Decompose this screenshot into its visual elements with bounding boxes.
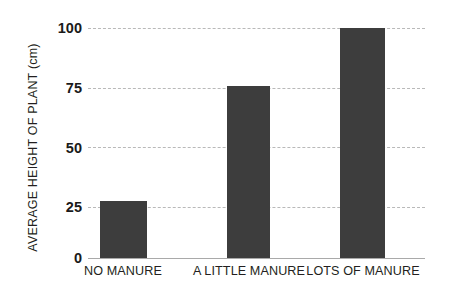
bar-lots-of-manure (340, 28, 385, 258)
x-label-no-manure: NO MANURE (84, 264, 162, 278)
bar-a-little-manure (227, 86, 270, 259)
x-label-lots-of-manure: LOTS OF MANURE (306, 264, 419, 278)
y-tick-label-75: 75 (40, 81, 82, 96)
x-axis-line (88, 258, 425, 259)
plot-area (88, 28, 425, 258)
bar-chart: AVERAGE HEIGHT OF PLANT (cm) 100 75 50 2… (0, 0, 450, 295)
y-tick-label-0: 0 (40, 251, 82, 266)
y-tick-label-100: 100 (40, 21, 82, 36)
y-axis-tick-labels: 100 75 50 25 0 (40, 0, 82, 295)
bar-no-manure (100, 201, 147, 259)
y-tick-label-25: 25 (40, 200, 82, 215)
x-label-a-little-manure: A LITTLE MANURE (193, 264, 305, 278)
y-tick-label-50: 50 (40, 141, 82, 156)
